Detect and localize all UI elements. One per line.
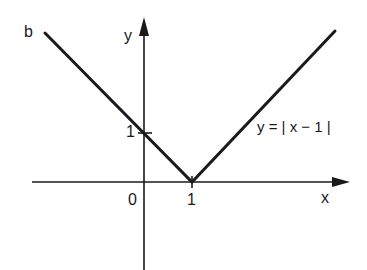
- origin-label: 0: [128, 192, 137, 208]
- figure-canvas: b y 1 0 1 x y = | x − 1 |: [0, 0, 367, 270]
- graph-svg: [0, 0, 367, 270]
- equation-label: y = | x − 1 |: [257, 119, 331, 134]
- function-curve: [45, 31, 335, 182]
- x-tick-label-1: 1: [187, 192, 196, 208]
- y-axis-label: y: [124, 28, 132, 44]
- y-tick-label-1: 1: [126, 124, 135, 140]
- y-axis-arrow-icon: [139, 17, 149, 36]
- panel-label: b: [24, 24, 33, 40]
- x-axis-label: x: [321, 190, 329, 206]
- x-axis-arrow-icon: [332, 177, 350, 187]
